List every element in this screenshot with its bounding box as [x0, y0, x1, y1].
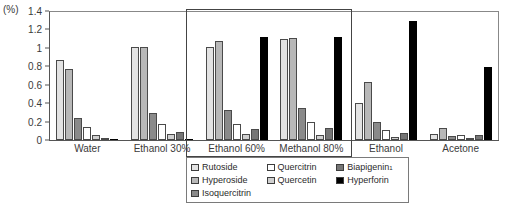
bar-biapigenin: [251, 129, 259, 140]
legend-label: Rutoside: [202, 163, 238, 172]
legend-swatch-icon: [336, 177, 344, 184]
legend-item-biapigenin: Biapigenin1: [336, 163, 404, 172]
bar-quercitrin: [233, 124, 241, 140]
x-axis-baseline: [49, 140, 499, 141]
x-axis-tick-label: Water: [50, 143, 125, 154]
bar-isoquercitrin: [149, 113, 157, 140]
bar-biapigenin: [400, 133, 408, 140]
bar-hyperoside: [439, 128, 447, 140]
legend-label: Isoquercitrin: [202, 189, 251, 198]
bar-group: [349, 12, 424, 140]
bar-hyperforin: [185, 139, 193, 140]
x-axis-tick-label: Ethanol 30%: [125, 143, 200, 154]
bar-group: [125, 12, 200, 140]
legend-row: Rutoside Quercitrin Biapigenin1: [191, 161, 404, 174]
legend-item-hyperforin: Hyperforin: [336, 176, 404, 185]
x-axis-tick-label: Ethanol: [349, 143, 424, 154]
bar-hyperforin: [334, 37, 342, 140]
bar-rutoside: [355, 103, 363, 140]
y-axis-tick-label: 0.8: [16, 61, 42, 72]
x-axis-tick-label: Methanol 80%: [274, 143, 349, 154]
legend-swatch-icon: [191, 177, 199, 184]
bar-hyperforin: [110, 139, 118, 140]
legend-item-quercetin: Quercetin: [267, 176, 337, 185]
bar-hyperoside: [65, 69, 73, 140]
bar-biapigenin: [101, 138, 109, 140]
y-axis-tick-mark: [45, 66, 49, 67]
bar-biapigenin: [475, 135, 483, 140]
bar-quercitrin: [457, 135, 465, 140]
legend-item-rutoside: Rutoside: [191, 163, 267, 172]
legend-swatch-icon: [336, 164, 344, 171]
legend-row: Hyperoside Quercetin Hyperforin: [191, 174, 404, 187]
bar-quercetin: [242, 134, 250, 140]
bar-chart: (%) 1.41.210.80.60.40.20 WaterEthanol 30…: [0, 0, 506, 209]
y-axis-tick-label: 0.2: [16, 116, 42, 127]
x-axis-tick-label: Ethanol 60%: [199, 143, 274, 154]
bar-group: [50, 12, 125, 140]
bar-hyperoside: [364, 82, 372, 140]
bar-quercetin: [316, 135, 324, 140]
bar-rutoside: [430, 134, 438, 140]
bar-rutoside: [280, 39, 288, 140]
y-axis-tick-mark: [45, 11, 49, 12]
bar-rutoside: [206, 47, 214, 140]
legend-item-hyperoside: Hyperoside: [191, 176, 267, 185]
legend-label: Biapigenin: [347, 163, 389, 172]
bar-quercetin: [167, 134, 175, 140]
legend: Rutoside Quercitrin Biapigenin1 Hyperosi…: [186, 157, 409, 203]
bar-hyperoside: [215, 41, 223, 140]
y-axis-tick-label: 0: [16, 135, 42, 146]
bar-hyperoside: [140, 47, 148, 140]
legend-footnote-marker: 1: [389, 165, 392, 171]
y-axis-tick-mark: [45, 140, 49, 141]
legend-row: Isoquercitrin: [191, 187, 404, 200]
legend-label: Hyperforin: [347, 176, 389, 185]
legend-swatch-icon: [267, 164, 275, 171]
y-axis-tick-label: 1: [16, 42, 42, 53]
bar-isoquercitrin: [373, 122, 381, 140]
legend-item-quercitrin: Quercitrin: [267, 163, 337, 172]
y-axis-tick-mark: [45, 121, 49, 122]
legend-swatch-icon: [191, 190, 199, 197]
legend-label: Quercitrin: [278, 163, 317, 172]
bar-isoquercitrin: [74, 118, 82, 140]
bar-hyperforin: [484, 67, 492, 140]
legend-label: Quercetin: [278, 176, 317, 185]
bar-quercitrin: [307, 122, 315, 140]
bar-isoquercitrin: [448, 136, 456, 140]
bar-biapigenin: [176, 132, 184, 140]
legend-label: Hyperoside: [202, 176, 248, 185]
y-axis-tick-label: 0.6: [16, 79, 42, 90]
bar-isoquercitrin: [224, 110, 232, 140]
bar-hyperoside: [289, 38, 297, 140]
y-axis: 1.41.210.80.60.40.20: [6, 0, 42, 209]
legend-swatch-icon: [267, 177, 275, 184]
bar-quercitrin: [382, 130, 390, 140]
legend-swatch-icon: [191, 164, 199, 171]
bar-rutoside: [56, 60, 64, 140]
y-axis-tick-mark: [45, 29, 49, 30]
bar-group: [423, 12, 498, 140]
bar-biapigenin: [325, 128, 333, 140]
y-axis-tick-label: 0.4: [16, 98, 42, 109]
bar-group: [199, 12, 274, 140]
legend-item-isoquercitrin: Isoquercitrin: [191, 189, 269, 198]
bar-group: [274, 12, 349, 140]
y-axis-tick-label: 1.2: [16, 24, 42, 35]
bar-isoquercitrin: [298, 108, 306, 140]
y-axis-tick-mark: [45, 47, 49, 48]
y-axis-tick-mark: [45, 84, 49, 85]
bar-quercetin: [391, 137, 399, 140]
bar-hyperforin: [409, 21, 417, 140]
y-axis-tick-mark: [45, 103, 49, 104]
x-axis-tick-label: Acetone: [423, 143, 498, 154]
bar-quercetin: [466, 138, 474, 140]
y-axis-tick-label: 1.4: [16, 6, 42, 17]
bar-quercitrin: [83, 127, 91, 140]
bar-hyperforin: [260, 37, 268, 140]
bar-quercitrin: [158, 124, 166, 140]
bar-rutoside: [131, 47, 139, 140]
bar-quercetin: [92, 135, 100, 140]
